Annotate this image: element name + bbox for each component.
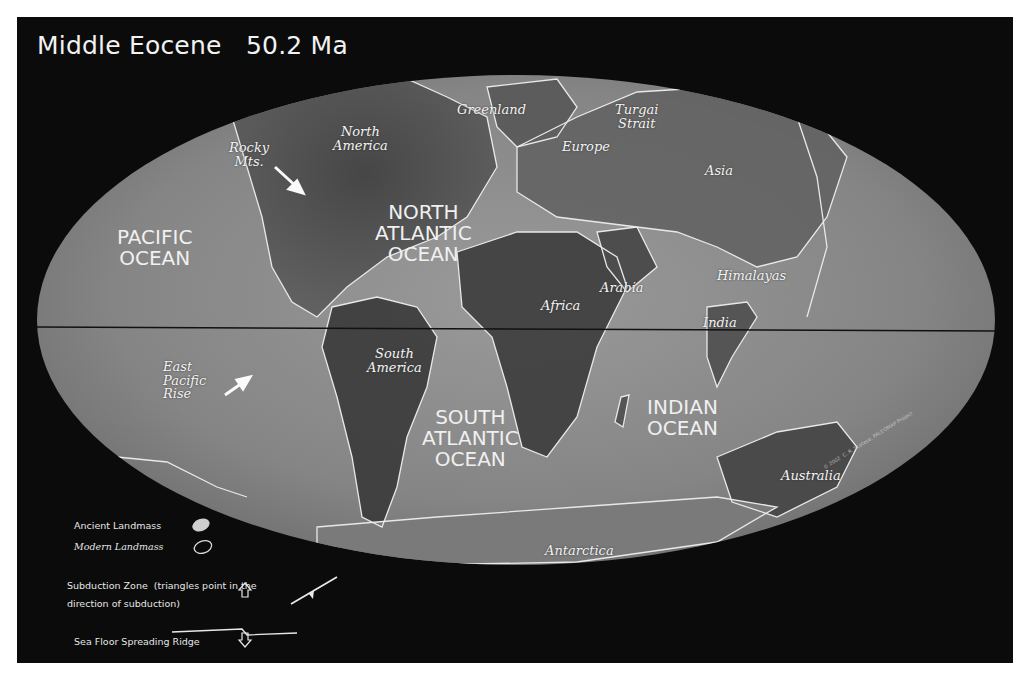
modern-landmass-swatch bbox=[192, 538, 213, 555]
label-arabia: Arabia bbox=[600, 281, 644, 295]
label-north-america: North America bbox=[333, 125, 388, 152]
legend-ancient-landmass: Ancient Landmass bbox=[74, 520, 161, 531]
map-frame: Middle Eocene 50.2 Ma PACIFIC OCEAN NORT… bbox=[17, 17, 1013, 663]
label-indian-ocean: INDIAN OCEAN bbox=[647, 397, 718, 439]
label-himalayas: Himalayas bbox=[717, 269, 786, 283]
label-turgai-strait: Turgai Strait bbox=[615, 103, 659, 130]
map-title: Middle Eocene 50.2 Ma bbox=[37, 31, 348, 60]
label-rocky-mts: Rocky Mts. bbox=[229, 141, 269, 168]
label-india: India bbox=[703, 316, 737, 330]
label-north-atlantic-ocean: NORTH ATLANTIC OCEAN bbox=[375, 202, 472, 265]
legend-modern-landmass: Modern Landmass bbox=[74, 541, 163, 552]
ancient-landmass-swatch bbox=[190, 516, 211, 533]
label-antarctica: Antarctica bbox=[545, 544, 614, 558]
label-east-pacific-rise: East Pacific Rise bbox=[163, 360, 206, 401]
label-pacific-ocean: PACIFIC OCEAN bbox=[117, 227, 192, 269]
subduction-zone-symbol bbox=[291, 577, 337, 604]
label-africa: Africa bbox=[541, 299, 580, 313]
label-asia: Asia bbox=[705, 164, 733, 178]
label-south-atlantic-ocean: SOUTH ATLANTIC OCEAN bbox=[422, 407, 519, 470]
spreading-ridge-symbol bbox=[172, 629, 297, 635]
label-greenland: Greenland bbox=[457, 103, 526, 117]
legend-spreading-ridge: Sea Floor Spreading Ridge bbox=[74, 636, 200, 647]
legend-subduction-zone: Subduction Zone (triangles point in the … bbox=[67, 577, 257, 613]
label-australia: Australia bbox=[781, 469, 841, 483]
label-europe: Europe bbox=[562, 140, 610, 154]
label-south-america: South America bbox=[367, 347, 422, 374]
